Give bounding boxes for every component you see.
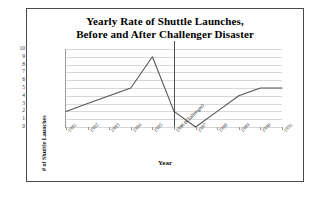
y-axis-tick-label: 9 xyxy=(22,54,25,60)
y-axis-tick-label: 8 xyxy=(22,62,25,68)
x-axis-title: Year xyxy=(27,159,303,167)
chart-title-line-2: Before and After Challenger Disaster xyxy=(27,28,303,41)
series-line xyxy=(66,49,282,127)
y-axis-tick-labels: 109876543210 xyxy=(11,49,25,127)
y-axis-tick-label: 1 xyxy=(22,116,25,122)
y-axis-tick-label: 6 xyxy=(22,77,25,83)
chart-title: Yearly Rate of Shuttle Launches, Before … xyxy=(27,15,303,41)
chart-title-line-1: Yearly Rate of Shuttle Launches, xyxy=(86,15,244,27)
plot-area xyxy=(65,49,282,128)
y-axis-tick-label: 2 xyxy=(22,109,25,115)
y-axis-tick-label: 7 xyxy=(22,70,25,76)
chart-figure: Yearly Rate of Shuttle Launches, Before … xyxy=(26,8,304,182)
y-axis-tick-label: 0 xyxy=(22,124,25,130)
x-axis-tick-label: 1991 xyxy=(282,122,294,134)
y-axis-tick-label: 3 xyxy=(22,101,25,107)
y-axis-tick-label: 10 xyxy=(20,46,26,52)
y-axis-tick-label: 5 xyxy=(22,85,25,91)
y-axis-tick-label: 4 xyxy=(22,93,25,99)
